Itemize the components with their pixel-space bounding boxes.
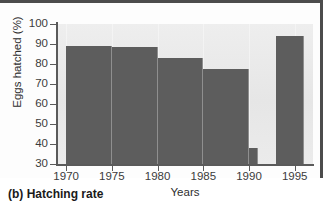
y-tick-mark xyxy=(50,24,56,25)
y-tick-mark xyxy=(50,44,56,45)
figure-caption: (b) Hatching rate xyxy=(8,187,103,201)
y-tick-label: 40 xyxy=(2,138,48,150)
bar xyxy=(276,36,303,164)
y-tick-label-wrap: 40 xyxy=(0,138,48,139)
bar xyxy=(112,47,158,164)
bar xyxy=(249,148,258,164)
y-tick-label-wrap: 80 xyxy=(0,58,48,59)
y-tick-label: 30 xyxy=(2,158,48,170)
y-tick-label: 90 xyxy=(2,38,48,50)
y-tick-mark xyxy=(50,104,56,105)
bar xyxy=(158,58,204,164)
x-tick-label: 1980 xyxy=(133,171,183,183)
x-tick-label: 1990 xyxy=(224,171,274,183)
y-tick-label-wrap: 90 xyxy=(0,38,48,39)
x-tick-label: 1970 xyxy=(41,171,91,183)
y-tick-label: 100 xyxy=(2,18,48,30)
bar xyxy=(66,46,112,164)
y-tick-label-wrap: 60 xyxy=(0,98,48,99)
y-tick-mark xyxy=(50,124,56,125)
y-tick-label: 60 xyxy=(2,98,48,110)
y-tick-label-wrap: 30 xyxy=(0,158,48,159)
y-tick-label: 50 xyxy=(2,118,48,130)
gridline-vertical xyxy=(249,24,250,164)
y-tick-label: 70 xyxy=(2,78,48,90)
y-axis-title: Eggs hatched (%) xyxy=(11,0,23,132)
x-tick-label: 1985 xyxy=(178,171,228,183)
frame-border-top xyxy=(0,0,323,3)
y-tick-label-wrap: 100 xyxy=(0,18,48,19)
y-tick-mark xyxy=(50,84,56,85)
y-tick-label: 80 xyxy=(2,58,48,70)
x-tick-label: 1975 xyxy=(87,171,137,183)
y-tick-label-wrap: 50 xyxy=(0,118,48,119)
bar xyxy=(203,69,249,164)
figure-hatching-rate: 30405060708090100 1970197519801985199019… xyxy=(0,0,323,210)
y-tick-label-wrap: 70 xyxy=(0,78,48,79)
y-tick-mark xyxy=(50,64,56,65)
x-axis-line xyxy=(56,164,314,166)
y-tick-mark xyxy=(50,144,56,145)
x-tick-label: 1995 xyxy=(270,171,320,183)
y-axis-line xyxy=(56,22,58,166)
y-tick-mark xyxy=(50,164,56,165)
